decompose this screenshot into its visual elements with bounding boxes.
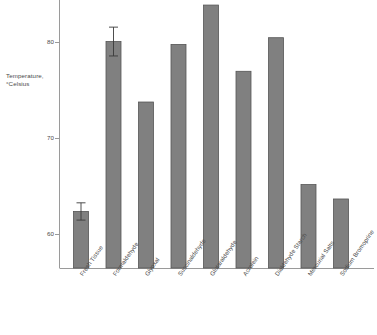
bars-group (74, 5, 349, 268)
bar-chart: Temperature, °Celsius 80 70 60 Fresh Tis… (0, 0, 377, 335)
plot-area (0, 0, 377, 335)
bar (269, 38, 284, 268)
bar (236, 71, 251, 268)
bar (171, 44, 186, 268)
bar (204, 5, 219, 268)
bar (334, 199, 349, 268)
bar (106, 42, 121, 268)
bar (139, 102, 154, 268)
bar (301, 185, 316, 268)
